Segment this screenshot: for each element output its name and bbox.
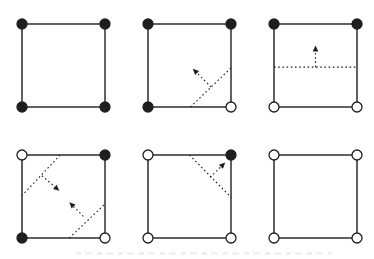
corner-dot-bottom-left-filled	[17, 102, 27, 112]
square-outline	[22, 155, 105, 238]
corner-dot-bottom-right-open	[352, 102, 362, 112]
panel-2-bottom-right-corner-cut	[143, 19, 236, 112]
corner-dot-top-right-filled	[100, 19, 110, 29]
dotted-cut-line	[190, 155, 232, 197]
move-arrow-shaft	[74, 207, 84, 217]
corner-dot-top-left-filled	[143, 19, 153, 29]
corner-dot-top-left-open	[143, 150, 153, 160]
corner-dot-top-right-filled	[100, 150, 110, 160]
panel-3-horizontal-cut	[269, 19, 362, 112]
figure-wrap	[0, 0, 374, 259]
square-outline	[22, 24, 105, 107]
corner-dot-bottom-left-open	[143, 233, 153, 243]
corner-dot-top-left-open	[17, 150, 27, 160]
move-arrow-shaft	[42, 176, 55, 187]
corner-dot-top-left-open	[269, 150, 279, 160]
square-outline	[274, 155, 357, 238]
corner-dot-bottom-right-open	[226, 233, 236, 243]
cropped-caption-remnant	[76, 252, 332, 255]
corner-dot-top-right-filled	[226, 19, 236, 29]
move-arrow-head	[313, 46, 319, 52]
move-arrow-head	[69, 202, 75, 208]
square-outline	[148, 24, 231, 107]
move-arrow-head	[53, 185, 59, 191]
square-outline	[274, 24, 357, 107]
square-outline	[148, 155, 231, 238]
panel-1-all-corners-filled	[17, 19, 110, 112]
figure-canvas	[0, 0, 374, 259]
corner-dot-top-left-filled	[17, 19, 27, 29]
move-arrow-shaft	[197, 73, 211, 87]
corner-dot-top-right-filled	[352, 19, 362, 29]
corner-dot-bottom-right-open	[352, 233, 362, 243]
panel-4-two-diagonal-cuts	[17, 150, 110, 243]
corner-dot-bottom-left-filled	[143, 102, 153, 112]
corner-dot-top-left-filled	[269, 19, 279, 29]
corner-dot-top-right-filled	[226, 150, 236, 160]
dotted-cut-line	[22, 155, 60, 196]
panel-5-top-right-corner-cut	[143, 150, 236, 243]
corner-dot-bottom-left-open	[269, 102, 279, 112]
corner-dot-top-right-open	[352, 150, 362, 160]
corner-dot-bottom-left-filled	[17, 233, 27, 243]
corner-dot-bottom-right-open	[100, 233, 110, 243]
corner-dot-bottom-right-filled	[100, 102, 110, 112]
corner-dot-bottom-right-open	[226, 102, 236, 112]
dotted-cut-line	[190, 68, 231, 107]
dotted-cut-line	[69, 204, 105, 238]
panel-6-all-corners-open	[269, 150, 362, 243]
move-arrow-shaft	[210, 167, 221, 178]
corner-dot-bottom-left-open	[269, 233, 279, 243]
